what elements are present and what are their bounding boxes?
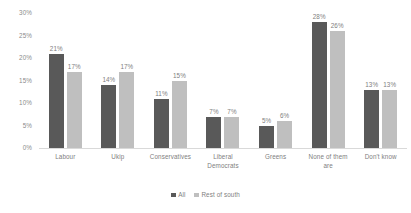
- bar-pair: 14%17%: [92, 0, 145, 148]
- bar-column: 17%: [67, 0, 82, 148]
- x-tick-label-line: Democrats: [197, 161, 250, 170]
- bar-group: 14%17%: [92, 0, 145, 148]
- y-tick-label: 10%: [19, 100, 32, 106]
- legend-label: All: [178, 192, 185, 198]
- bar-column: 13%: [382, 0, 397, 148]
- legend-label: Rest of south: [201, 192, 239, 198]
- y-tick-label: 25%: [19, 32, 32, 38]
- x-tick-label-line: are: [302, 161, 355, 170]
- x-tick-label-line: Ukip: [92, 152, 145, 161]
- bar-group: 5%6%: [249, 0, 302, 148]
- bar-value-label: 17%: [120, 64, 133, 70]
- bar-column: 13%: [364, 0, 379, 148]
- x-tick-label: Labour: [39, 152, 92, 161]
- bar-value-label: 14%: [102, 77, 115, 83]
- bar-groups: 21%17%14%17%11%15%7%7%5%6%28%26%13%13%: [39, 0, 407, 148]
- bar-group: 7%7%: [197, 0, 250, 148]
- x-tick-label-line: Greens: [249, 152, 302, 161]
- bar-column: 28%: [312, 0, 327, 148]
- x-tick-label-line: Conservatives: [144, 152, 197, 161]
- bar-group: 28%26%: [302, 0, 355, 148]
- bar[interactable]: [364, 90, 379, 149]
- bar[interactable]: [330, 31, 345, 148]
- bar-value-label: 7%: [209, 109, 218, 115]
- x-axis: LabourUkipConservativesLiberalDemocratsG…: [39, 152, 407, 182]
- y-tick-label: 15%: [19, 77, 32, 83]
- bar-value-label: 17%: [68, 64, 81, 70]
- bar-value-label: 7%: [227, 109, 236, 115]
- chart-legend: AllRest of south: [0, 192, 411, 198]
- bar[interactable]: [154, 99, 169, 149]
- bar-pair: 28%26%: [302, 0, 355, 148]
- bar-value-label: 21%: [50, 46, 63, 52]
- bar-column: 26%: [330, 0, 345, 148]
- bar-column: 5%: [259, 0, 274, 148]
- legend-swatch-icon: [194, 193, 199, 198]
- y-axis: 0%5%10%15%20%25%30%: [0, 0, 37, 160]
- bar-chart: 0%5%10%15%20%25%30% 21%17%14%17%11%15%7%…: [0, 0, 411, 213]
- x-axis-line: [39, 148, 407, 149]
- bar-value-label: 13%: [383, 82, 396, 88]
- bar-value-label: 6%: [280, 113, 289, 119]
- y-tick-label: 0%: [23, 145, 32, 151]
- x-tick-label: Greens: [249, 152, 302, 161]
- bar-pair: 7%7%: [197, 0, 250, 148]
- legend-item[interactable]: All: [171, 192, 185, 198]
- x-tick-label-line: Liberal: [197, 152, 250, 161]
- bar[interactable]: [67, 72, 82, 149]
- bar-value-label: 26%: [331, 23, 344, 29]
- y-tick-label: 20%: [19, 55, 32, 61]
- bar-value-label: 15%: [173, 73, 186, 79]
- x-tick-label: None of themare: [302, 152, 355, 170]
- bar[interactable]: [172, 81, 187, 149]
- bar-pair: 5%6%: [249, 0, 302, 148]
- bar[interactable]: [277, 121, 292, 148]
- bar-group: 21%17%: [39, 0, 92, 148]
- bar[interactable]: [49, 54, 64, 149]
- bar-column: 6%: [277, 0, 292, 148]
- bar-value-label: 28%: [313, 14, 326, 20]
- bar[interactable]: [119, 72, 134, 149]
- bar-group: 13%13%: [354, 0, 407, 148]
- legend-swatch-icon: [171, 193, 176, 198]
- bar-column: 21%: [49, 0, 64, 148]
- bar-column: 15%: [172, 0, 187, 148]
- x-tick-label: LiberalDemocrats: [197, 152, 250, 170]
- legend-item[interactable]: Rest of south: [194, 192, 239, 198]
- bar[interactable]: [206, 117, 221, 149]
- x-tick-label-line: Don't know: [354, 152, 407, 161]
- bar[interactable]: [101, 85, 116, 148]
- bar[interactable]: [224, 117, 239, 149]
- x-tick-label-line: None of them: [302, 152, 355, 161]
- bar-column: 11%: [154, 0, 169, 148]
- bar-column: 7%: [206, 0, 221, 148]
- bar[interactable]: [382, 90, 397, 149]
- x-tick-label: Ukip: [92, 152, 145, 161]
- bar-pair: 13%13%: [354, 0, 407, 148]
- bar-column: 7%: [224, 0, 239, 148]
- bar-pair: 21%17%: [39, 0, 92, 148]
- x-tick-label-line: Labour: [39, 152, 92, 161]
- bar-column: 17%: [119, 0, 134, 148]
- y-tick-label: 5%: [23, 122, 32, 128]
- bar-group: 11%15%: [144, 0, 197, 148]
- x-tick-label: Don't know: [354, 152, 407, 161]
- bar-value-label: 13%: [365, 82, 378, 88]
- bar-pair: 11%15%: [144, 0, 197, 148]
- bar-value-label: 11%: [155, 91, 167, 97]
- x-tick-label: Conservatives: [144, 152, 197, 161]
- bar-value-label: 5%: [262, 118, 271, 124]
- bar-column: 14%: [101, 0, 116, 148]
- y-tick-label: 30%: [19, 10, 32, 16]
- bar[interactable]: [259, 126, 274, 149]
- bar[interactable]: [312, 22, 327, 148]
